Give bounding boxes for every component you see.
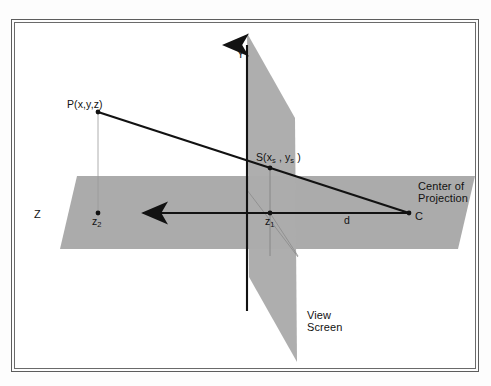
z-near-subscript: 1 — [270, 220, 274, 229]
cop-line-2: Projection — [418, 192, 468, 204]
z-axis-label: Z — [34, 208, 41, 220]
view-screen-line-1: View — [307, 309, 342, 321]
point-s-subscript-y: s — [290, 156, 294, 165]
point-marker-c — [407, 211, 412, 216]
diagram-canvas: Y Z P(x,y,z) S(xs , ys ) z1 z2 d Center … — [0, 0, 491, 386]
view-screen-line-2: Screen — [307, 321, 342, 333]
point-s-label: S(xs , ys ) — [256, 152, 301, 164]
y-axis-label: Y — [237, 48, 244, 60]
point-marker-s — [268, 166, 273, 171]
z-far-subscript: 2 — [97, 220, 101, 229]
point-s-subscript-x: s — [272, 156, 276, 165]
z-near-label: z1 — [265, 216, 275, 228]
distance-d-label: d — [344, 215, 350, 227]
figure-content-area: Y Z P(x,y,z) S(xs , ys ) z1 z2 d Center … — [15, 23, 475, 368]
z-far-label: z2 — [92, 216, 102, 228]
point-s-prefix: S(x — [256, 151, 272, 163]
center-point-c-label: C — [415, 210, 423, 222]
projection-svg — [15, 23, 475, 368]
center-of-projection-label: Center of Projection — [418, 180, 468, 205]
cop-line-1: Center of — [418, 180, 468, 192]
view-screen-label: View Screen — [307, 309, 342, 334]
view-screen-plane — [247, 33, 297, 362]
point-p-label: P(x,y,z) — [67, 99, 103, 111]
point-s-middle: , y — [276, 151, 290, 163]
point-s-suffix: ) — [294, 151, 301, 163]
